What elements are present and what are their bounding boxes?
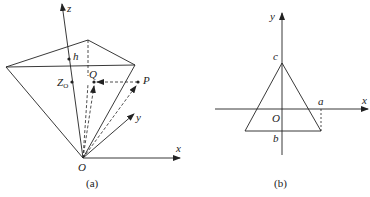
pyramid-top-face — [6, 40, 135, 67]
diagram-canvas: z x y O h ZO Q P (a) y x c a O b (b) — [0, 0, 370, 197]
label-p: P — [142, 74, 150, 86]
point-q — [92, 80, 95, 83]
label-y-b: y — [269, 10, 275, 22]
label-x-a: x — [175, 142, 181, 154]
y-axis-a — [83, 114, 134, 158]
caption-a: (a) — [86, 177, 99, 190]
point-p — [136, 80, 139, 83]
label-x-b: x — [361, 94, 367, 106]
caption-b: (b) — [274, 177, 287, 190]
label-q: Q — [89, 68, 97, 80]
label-zo: ZO — [57, 76, 68, 90]
label-b: b — [273, 132, 279, 144]
label-origin-b: O — [272, 112, 280, 124]
figure-b: y x c a O b (b) — [215, 10, 368, 190]
point-h — [67, 57, 70, 60]
ray-to-q — [83, 86, 94, 158]
label-z-a: z — [66, 2, 72, 14]
label-origin-a: O — [78, 161, 86, 173]
label-zo-sub: O — [63, 82, 68, 90]
label-a: a — [318, 95, 324, 107]
label-c: c — [273, 50, 278, 62]
triangle — [245, 63, 321, 131]
figure-a: z x y O h ZO Q P (a) — [6, 2, 181, 190]
ray-o-mid — [83, 84, 88, 158]
label-h: h — [73, 50, 79, 62]
point-zo — [70, 80, 73, 83]
label-y-a: y — [135, 111, 141, 123]
ray-to-p — [83, 86, 136, 158]
